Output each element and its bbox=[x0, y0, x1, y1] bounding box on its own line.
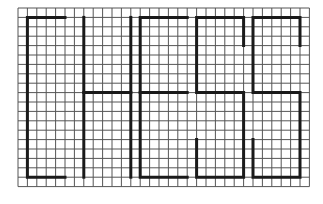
letter-s-stroke bbox=[253, 17, 300, 177]
grid-board bbox=[0, 0, 323, 204]
letter-e-stroke bbox=[140, 17, 187, 177]
grid-lines bbox=[18, 8, 309, 187]
letter-s-stroke bbox=[197, 17, 244, 177]
letter-strokes bbox=[27, 17, 300, 177]
